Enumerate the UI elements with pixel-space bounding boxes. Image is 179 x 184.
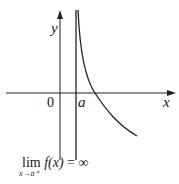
function-text: f(x) — [44, 155, 63, 170]
x-axis-label: x — [163, 95, 170, 110]
infinity-value: ∞ — [79, 155, 89, 170]
limit-formula: lim x→a⁺ f(x) = ∞ — [22, 155, 89, 171]
equals-sign: = — [67, 155, 75, 170]
lim-text: lim — [22, 155, 41, 170]
limit-diagram: y x 0 a lim x→a⁺ f(x) = ∞ — [0, 0, 179, 184]
origin-label: 0 — [47, 96, 54, 110]
limit-operator: lim x→a⁺ — [22, 155, 41, 171]
y-axis-arrow-icon — [57, 10, 63, 19]
asymptote-label: a — [78, 95, 86, 110]
function-curve — [78, 10, 137, 136]
y-axis-label: y — [51, 21, 58, 36]
limit-subscript: x→a⁺ — [19, 169, 39, 178]
